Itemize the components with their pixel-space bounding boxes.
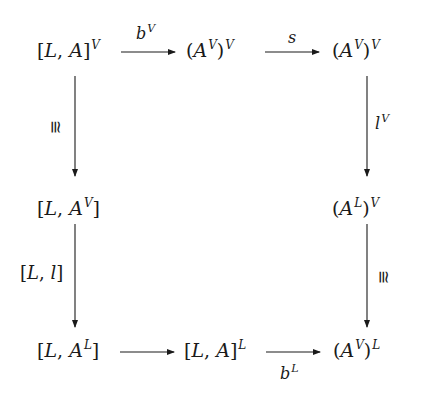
comma: , bbox=[57, 339, 69, 361]
symbol-L: L bbox=[44, 339, 57, 361]
superscript: L bbox=[291, 362, 298, 375]
node-top-right: (AV)V bbox=[332, 41, 380, 60]
node-bottom-right: (AV)L bbox=[333, 341, 380, 360]
comma: , bbox=[57, 39, 69, 61]
label-lV: lV bbox=[375, 116, 389, 132]
node-bottom-left: [L, AL] bbox=[37, 341, 99, 360]
node-bottom-mid: [L, A]L bbox=[184, 341, 246, 360]
symbol-L: L bbox=[44, 39, 57, 61]
symbol-A: A bbox=[193, 39, 207, 61]
isomorphism-icon: ≅ bbox=[46, 120, 66, 134]
label-bV: bV bbox=[136, 26, 155, 42]
symbol-A: A bbox=[69, 39, 83, 61]
superscript: V bbox=[371, 38, 380, 52]
superscript: V bbox=[91, 38, 100, 52]
node-top-left: [L, A]V bbox=[37, 41, 100, 60]
label-iso-left: ≅ bbox=[47, 120, 64, 134]
symbol-A: A bbox=[339, 197, 353, 219]
symbol-L: L bbox=[191, 339, 204, 361]
symbol-L: L bbox=[44, 197, 57, 219]
paren: ) bbox=[363, 39, 370, 61]
superscript: L bbox=[84, 338, 92, 352]
label-s: s bbox=[288, 30, 296, 46]
bracket: ] bbox=[93, 197, 100, 219]
superscript: V bbox=[84, 196, 93, 210]
superscript: V bbox=[371, 196, 380, 210]
symbol-b: b bbox=[136, 24, 146, 43]
superscript: V bbox=[355, 338, 364, 352]
superscript: V bbox=[208, 38, 217, 52]
paren: ) bbox=[362, 197, 369, 219]
symbol-b: b bbox=[280, 364, 290, 383]
label-iso-right: ≅ bbox=[375, 270, 392, 284]
superscript: L bbox=[372, 338, 380, 352]
node-top-mid: (AV)V bbox=[186, 41, 234, 60]
symbol-A: A bbox=[69, 339, 83, 361]
comma: , bbox=[204, 339, 216, 361]
symbol-l: l bbox=[375, 114, 380, 133]
symbol-A: A bbox=[339, 39, 353, 61]
paren: ) bbox=[217, 39, 224, 61]
symbol-A: A bbox=[69, 197, 83, 219]
superscript: V bbox=[354, 38, 363, 52]
bracket: ] bbox=[83, 39, 90, 61]
superscript: V bbox=[381, 112, 389, 125]
label-L-l: [L, l] bbox=[20, 264, 63, 282]
paren: ) bbox=[364, 339, 371, 361]
isomorphism-icon: ≅ bbox=[374, 270, 394, 284]
bracket: ] bbox=[92, 339, 99, 361]
symbol-A: A bbox=[216, 339, 230, 361]
node-mid-right: (AL)V bbox=[332, 199, 379, 218]
symbol-s: s bbox=[288, 28, 296, 47]
superscript: L bbox=[238, 338, 246, 352]
superscript: V bbox=[147, 22, 155, 35]
label-bL: bL bbox=[280, 366, 299, 382]
bracket: ] bbox=[230, 339, 237, 361]
superscript: L bbox=[354, 196, 362, 210]
node-mid-left: [L, AV] bbox=[37, 199, 100, 218]
comma: , bbox=[57, 197, 69, 219]
symbol-A: A bbox=[340, 339, 354, 361]
superscript: V bbox=[225, 38, 234, 52]
